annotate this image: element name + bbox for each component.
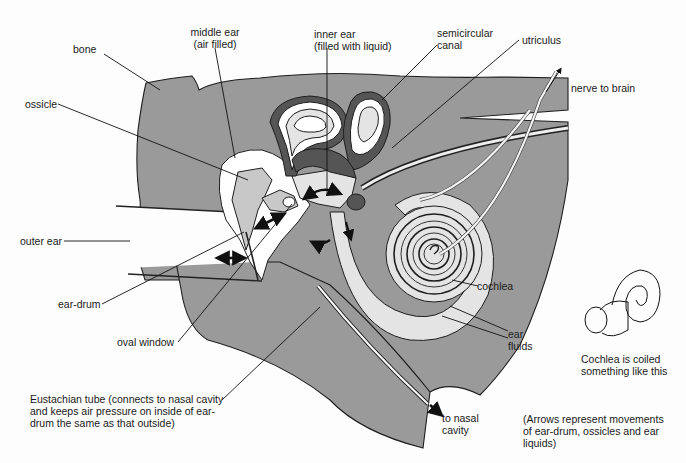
label-ear-fluids-line1: ear [508,328,533,340]
label-coil-caption-line2: something like this [581,365,667,377]
label-inner-ear-line1: inner ear [314,28,392,40]
label-coil-caption: Cochlea is coiled something like this [581,353,667,377]
label-inner-ear: inner ear (filled with liquid) [314,28,392,52]
label-semicircular-line1: semicircular [437,27,493,39]
ear-diagram: bone middle ear (air filled) inner ear (… [0,0,686,463]
label-eustachian-tube: Eustachian tube (connects to nasal cavit… [30,393,223,429]
label-ear-fluids-line2: fluids [508,340,533,352]
label-ear-fluids: ear fluids [508,328,533,352]
label-arrows-note-line3: liquids) [523,437,664,449]
label-to-nasal-cavity: to nasal cavity [442,412,479,436]
label-eustachian-line2: and keeps air pressure on inside of ear- [30,405,223,417]
label-nerve-to-brain: nerve to brain [571,82,635,94]
label-arrows-note: (Arrows represent movements of ear-drum,… [523,413,664,449]
label-eustachian-line3: drum the same as that outside) [30,417,223,429]
label-middle-ear-line2: (air filled) [175,38,255,50]
label-utriculus: utriculus [522,34,561,46]
label-middle-ear-line1: middle ear [175,26,255,38]
label-outer-ear: outer ear [20,235,62,247]
label-bone: bone [73,43,96,55]
label-ossicle: ossicle [25,98,57,110]
label-semicircular-canal: semicircular canal [437,27,493,51]
label-semicircular-line2: canal [437,39,493,51]
label-to-nasal-line1: to nasal [442,412,479,424]
label-arrows-note-line1: (Arrows represent movements [523,413,664,425]
label-coil-caption-line1: Cochlea is coiled [581,353,667,365]
label-middle-ear: middle ear (air filled) [175,26,255,50]
label-oval-window: oval window [117,336,174,348]
label-to-nasal-line2: cavity [442,424,479,436]
label-cochlea: cochlea [477,280,513,292]
label-inner-ear-line2: (filled with liquid) [314,40,392,52]
label-ear-drum: ear-drum [58,298,101,310]
label-arrows-note-line2: of ear-drum, ossicles and ear [523,425,664,437]
coil-sketch-icon [585,270,660,336]
label-eustachian-line1: Eustachian tube (connects to nasal cavit… [30,393,223,405]
